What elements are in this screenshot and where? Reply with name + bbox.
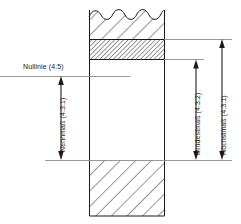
technical-drawing-canvas: Nullinie (4.5) Nennmaß (4.3.1) Mindestma… [0,0,241,224]
arrowhead-minimum-top [193,60,199,69]
drawing-svg [0,0,241,224]
label-zero-line: Nullinie (4.5) [23,63,64,70]
upper-material-block [89,8,165,39]
lower-material-hatch [90,160,165,216]
label-minimum-size: Mindestmaß (4.3.2) [194,93,201,156]
arrowhead-nominal-bottom [58,151,64,160]
label-nominal-size: Nennmaß (4.3.1) [59,98,66,152]
label-maximum-size: Höchstmaß (4.3.1) [220,95,227,155]
arrowhead-maximum-top [219,39,225,48]
upper-material-hatch [89,8,165,39]
arrowhead-nominal-top [58,76,64,85]
tolerance-zone [90,40,165,60]
lower-material-block [90,160,165,216]
tolerance-zone-hatch [90,40,165,60]
